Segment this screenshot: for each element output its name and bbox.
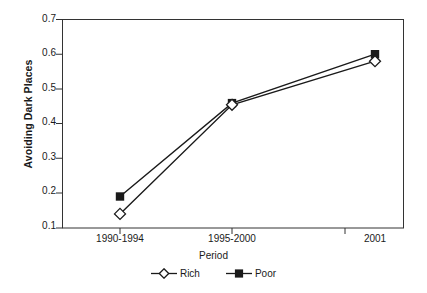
axes-frame — [63, 20, 404, 229]
chart-figure: Avoiding Dark Places 0.7 0.6 0.5 0.4 0.3… — [0, 0, 427, 293]
legend-label-rich: Rich — [180, 268, 200, 279]
x-axis-title: Period — [0, 250, 427, 261]
legend-label-poor: Poor — [255, 268, 276, 279]
x-tick-label-1995-2000: 1995-2000 — [208, 233, 256, 244]
legend-entry-poor: Poor — [226, 268, 276, 279]
y-tick-marks — [56, 20, 63, 229]
series-poor-line — [120, 54, 375, 196]
x-tick-label-2001: 2001 — [364, 233, 386, 244]
x-tick-label-1990-1994: 1990-1994 — [96, 233, 144, 244]
chart-legend: Rich Poor — [0, 268, 427, 279]
series-rich — [115, 56, 381, 220]
filled-square-marker-icon — [226, 268, 252, 279]
series-rich-line — [120, 61, 375, 214]
open-diamond-marker-icon — [151, 268, 177, 279]
legend-entry-rich: Rich — [151, 268, 200, 279]
data-point-poor-1990-1994 — [116, 192, 124, 200]
